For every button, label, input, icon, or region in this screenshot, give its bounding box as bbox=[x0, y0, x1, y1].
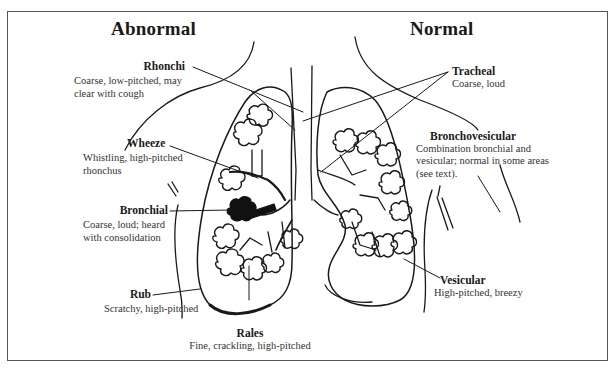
wheeze-desc-line2: rhonchus bbox=[83, 165, 203, 178]
rhonchi-title: Rhonchi bbox=[60, 60, 185, 73]
vesicular-desc-line1: High-pitched, breezy bbox=[434, 287, 564, 300]
bronchovesicular-leader bbox=[478, 176, 500, 212]
label-rhonchi: Rhonchi bbox=[60, 60, 185, 73]
bronchial-leader bbox=[170, 210, 232, 211]
bronchial-title: Bronchial bbox=[60, 204, 168, 217]
right-chest-wall bbox=[424, 190, 432, 312]
right-alveoli bbox=[333, 129, 417, 257]
vesicular-title: Vesicular bbox=[434, 274, 564, 287]
rub-desc-line1: Scratchy, high-pitched bbox=[104, 303, 224, 316]
bronchovesicular-desc-line3: (see text). bbox=[416, 168, 606, 181]
trachea-right-wall bbox=[311, 66, 312, 200]
rales-desc-line1: Fine, crackling, high-pitched bbox=[180, 340, 320, 353]
label-bronchial-desc: Coarse, loud; heard with consolidation bbox=[83, 219, 183, 244]
wheeze-desc-line1: Whistling, high-pitched bbox=[83, 152, 203, 165]
label-wheeze: Wheeze bbox=[127, 137, 165, 150]
bronchovesicular-title: Bronchovesicular bbox=[416, 130, 606, 143]
left-bronchus-lower bbox=[240, 222, 285, 252]
bronchial-desc-line2: with consolidation bbox=[83, 232, 183, 245]
right-chest-mark bbox=[437, 186, 453, 230]
left-bronchus-upper bbox=[252, 150, 262, 176]
tracheal-desc-line1: Coarse, loud bbox=[452, 78, 562, 91]
rhonchi-desc-line1: Coarse, low-pitched, may bbox=[74, 75, 204, 88]
label-bronchovesicular: Bronchovesicular Combination bronchial a… bbox=[416, 130, 606, 180]
heading-normal: Normal bbox=[410, 18, 473, 40]
label-rhonchi-desc: Coarse, low-pitched, may clear with coug… bbox=[74, 75, 204, 100]
rhonchi-desc-line2: clear with cough bbox=[74, 88, 204, 101]
rales-title: Rales bbox=[180, 327, 320, 340]
rub-title: Rub bbox=[100, 288, 151, 301]
left-chest-mark bbox=[168, 182, 178, 196]
left-alveoli bbox=[213, 104, 303, 280]
heading-abnormal: Abnormal bbox=[111, 18, 196, 40]
label-tracheal: Tracheal Coarse, loud bbox=[452, 65, 562, 90]
tracheal-title: Tracheal bbox=[452, 65, 562, 78]
leader-lines bbox=[153, 67, 500, 300]
right-bronchus-main bbox=[314, 170, 355, 215]
label-rales: Rales Fine, crackling, high-pitched bbox=[180, 327, 320, 352]
label-vesicular: Vesicular High-pitched, breezy bbox=[434, 274, 564, 299]
label-wheeze-desc: Whistling, high-pitched rhonchus bbox=[83, 152, 203, 177]
right-lung-outline bbox=[317, 87, 415, 306]
wheeze-title: Wheeze bbox=[127, 137, 165, 150]
bronchial-desc-line1: Coarse, loud; heard bbox=[83, 219, 183, 232]
bronchovesicular-desc-line2: vesicular; normal in some areas bbox=[416, 155, 606, 168]
left-bronchus-wheeze bbox=[230, 172, 285, 200]
label-rub-desc: Scratchy, high-pitched bbox=[104, 303, 224, 316]
lung-sounds-illustration bbox=[0, 0, 615, 370]
bronchovesicular-desc-line1: Combination bronchial and bbox=[416, 143, 606, 156]
label-rub: Rub bbox=[100, 288, 151, 301]
rub-leader bbox=[153, 289, 200, 295]
label-bronchial: Bronchial bbox=[60, 204, 168, 217]
